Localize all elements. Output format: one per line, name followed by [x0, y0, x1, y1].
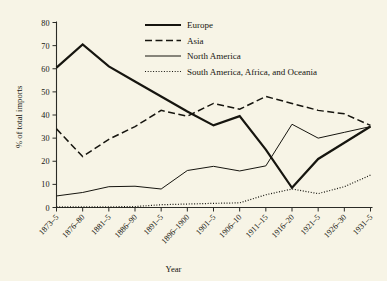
x-tick-label: 1921–5 — [299, 213, 322, 237]
x-tick-label: 1901–5 — [194, 213, 217, 237]
x-tick-label: 1876–80 — [61, 213, 87, 240]
x-tick-label: 1906–10 — [218, 213, 244, 240]
x-tick-label: 1886–90 — [113, 213, 139, 240]
y-tick-label: 0 — [45, 204, 49, 213]
series-line-north-america — [57, 124, 371, 196]
x-tick-label: 1916–20 — [270, 213, 296, 240]
y-tick-label: 40 — [41, 111, 49, 120]
y-tick-label: 10 — [41, 180, 49, 189]
y-tick-label: 20 — [41, 157, 49, 166]
x-tick-label: 1873–5 — [37, 213, 60, 237]
line-chart: 01020304050607080 1873–51876–801881–5188… — [0, 0, 387, 281]
x-tick-label: 1896–1900 — [160, 213, 192, 246]
x-axis-title: Year — [166, 264, 182, 274]
series-line-south-america-africa-and-oceania — [57, 175, 371, 207]
y-axis-ticks: 01020304050607080 — [41, 19, 56, 213]
x-tick-label: 1881–5 — [89, 213, 112, 237]
x-tick-label: 1911–15 — [244, 213, 270, 240]
x-tick-label: 1926–30 — [322, 213, 348, 240]
y-tick-label: 80 — [41, 19, 49, 28]
legend-label-1: Europe — [187, 20, 213, 30]
y-tick-label: 60 — [41, 65, 49, 74]
legend-label-3: North America — [187, 51, 241, 61]
legend-label-2: Asia — [187, 36, 204, 46]
y-tick-label: 30 — [41, 134, 49, 143]
y-tick-label: 50 — [41, 88, 49, 97]
x-tick-label: 1931–5 — [351, 213, 374, 237]
y-axis-title: % of total imports — [14, 85, 24, 148]
legend-label-4: South America, Africa, and Oceania — [187, 67, 317, 77]
x-axis-ticks: 1873–51876–801881–51886–901891–51896–190… — [37, 208, 374, 246]
x-tick-label: 1891–5 — [142, 213, 165, 237]
chart-legend: EuropeAsiaNorth AmericaSouth America, Af… — [145, 20, 317, 76]
chart-container: 01020304050607080 1873–51876–801881–5188… — [0, 0, 387, 281]
y-tick-label: 70 — [41, 42, 49, 51]
